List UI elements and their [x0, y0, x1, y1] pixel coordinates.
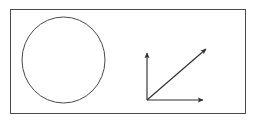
figure-container — [0, 0, 253, 123]
diagram-canvas — [0, 0, 253, 123]
figure-border — [11, 10, 246, 114]
